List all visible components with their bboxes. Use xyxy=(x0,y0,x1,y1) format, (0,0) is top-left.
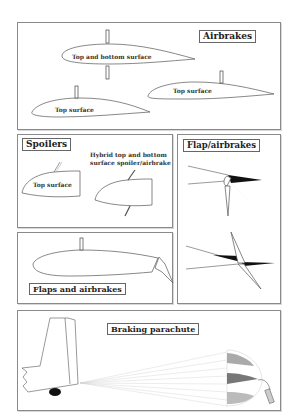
label-top-surface-left: Top surface xyxy=(55,106,94,113)
diagram-drawing xyxy=(0,0,299,419)
label-spoiler-top-surface: Top surface xyxy=(33,181,72,188)
label-hybrid-line2: surface spoiler/airbrake xyxy=(90,159,171,166)
airbrake-paddle xyxy=(80,238,83,250)
flap-airbrake-diagram-2 xyxy=(186,232,275,289)
label-top-surface-right: Top surface xyxy=(173,87,212,94)
airfoil-top-surface-right xyxy=(148,71,274,99)
airbrake-paddle-right xyxy=(220,71,223,83)
tail-wheel xyxy=(49,388,61,396)
flaps-and-airbrakes-title: Flaps and airbrakes xyxy=(29,283,126,295)
braking-parachute-title: Braking parachute xyxy=(107,323,199,335)
label-top-and-bottom-surface: Top and bottom surface xyxy=(72,53,152,60)
spoiler-airfoil-2 xyxy=(95,170,152,216)
label-hybrid-line1: Hybrid top and bottom xyxy=(90,151,167,158)
airbrakes-title: Airbrakes xyxy=(199,30,256,43)
flap-airfoil xyxy=(33,238,173,283)
airbrake-paddle-left xyxy=(75,86,78,98)
drogue-bag xyxy=(265,389,274,404)
glider-tail xyxy=(22,318,78,396)
flap-airbrakes-title: Flap/airbrakes xyxy=(183,139,260,152)
airbrake-top-paddle xyxy=(106,30,109,43)
airbrake-bottom-paddle xyxy=(106,66,109,79)
spoiler-airfoil-1 xyxy=(22,162,80,197)
flap-airbrake-diagram-1 xyxy=(188,166,262,216)
parachute-canopy xyxy=(227,350,274,406)
parachute-lines xyxy=(80,352,227,406)
spoilers-title: Spoilers xyxy=(22,138,71,151)
